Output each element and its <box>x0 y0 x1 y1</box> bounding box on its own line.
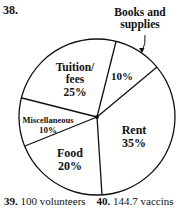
books-pct: 10% <box>111 70 133 82</box>
books-label-line2: supplies <box>120 18 160 31</box>
item-40-number: 40. <box>97 195 111 207</box>
item-39-text: 100 volunteers <box>21 195 86 207</box>
pie-center-dot <box>95 115 99 119</box>
books-label-line1: Books and <box>114 6 166 18</box>
boundary-rent-food <box>97 117 102 195</box>
misc-label: Miscellaneous <box>23 115 75 125</box>
rent-pct: 35% <box>122 136 146 150</box>
misc-pct: 10% <box>39 125 57 135</box>
item-39-number: 39. <box>4 195 18 207</box>
pie-chart: Books and supplies 10% Tuition/ fees 25%… <box>0 0 176 208</box>
tuition-label-line1: Tuition/ <box>56 61 95 73</box>
rent-label: Rent <box>122 123 147 137</box>
food-pct: 20% <box>58 159 82 173</box>
tuition-pct: 25% <box>64 86 87 98</box>
tuition-label-line2: fees <box>66 73 85 85</box>
footer-answers: 39. 100 volunteers 40. 144.7 vaccins <box>4 195 174 207</box>
item-40-text: 144.7 vaccins <box>113 195 173 207</box>
food-label: Food <box>57 146 83 160</box>
